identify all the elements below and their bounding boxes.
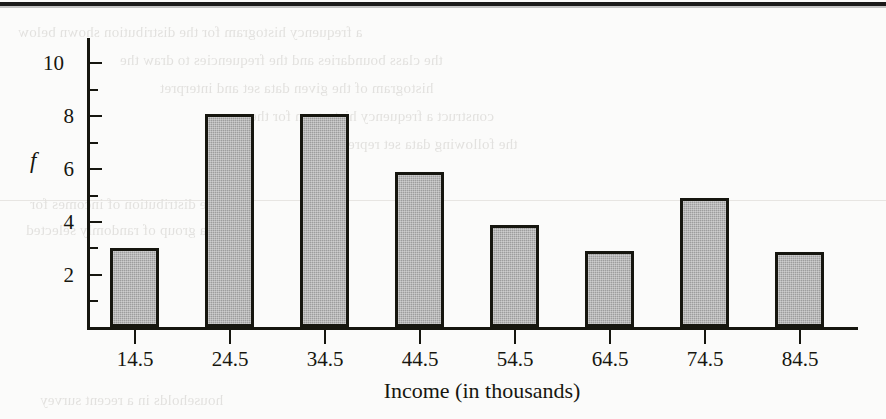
y-tick-label-2: 2 (34, 263, 74, 288)
bar-34-5 (300, 114, 349, 327)
bar-64-5 (585, 251, 634, 327)
x-tick-label-14-5: 14.5 (90, 347, 180, 372)
x-tick-label-54-5: 54.5 (470, 347, 560, 372)
x-tick-label-74-5: 74.5 (660, 347, 750, 372)
plot-area: 2 4 6 8 10 14.5 24.5 34.5 44.5 54.5 64.5… (0, 0, 886, 419)
y-tick-minor-5 (87, 195, 98, 197)
y-tick-major-6 (87, 168, 102, 170)
x-tick-34-5 (324, 330, 326, 344)
y-tick-minor-1 (87, 300, 98, 302)
x-tick-44-5 (419, 330, 421, 344)
x-tick-84-5 (799, 330, 801, 344)
bar-24-5 (205, 114, 254, 327)
histogram-figure: a frequency histogram for the distributi… (0, 0, 886, 419)
y-tick-major-8 (87, 115, 102, 117)
bar-54-5 (490, 225, 539, 327)
x-tick-label-64-5: 64.5 (565, 347, 655, 372)
y-tick-minor-9 (87, 89, 98, 91)
y-axis-title: f (30, 148, 36, 174)
y-tick-major-2 (87, 274, 102, 276)
y-tick-label-4: 4 (34, 210, 74, 235)
y-tick-label-6: 6 (34, 157, 74, 182)
y-axis-line (87, 38, 90, 329)
x-tick-54-5 (514, 330, 516, 344)
y-tick-minor-3 (87, 247, 98, 249)
x-axis-title-text: Income (in thousands) (384, 378, 581, 403)
x-axis-line (87, 327, 858, 330)
bar-44-5 (395, 172, 444, 327)
x-tick-14-5 (134, 330, 136, 344)
bar-14-5 (110, 248, 159, 327)
y-tick-major-10 (87, 62, 102, 64)
x-tick-label-34-5: 34.5 (280, 347, 370, 372)
x-tick-64-5 (609, 330, 611, 344)
bar-84-5 (775, 252, 824, 327)
y-tick-label-10: 10 (24, 51, 64, 76)
y-tick-minor-7 (87, 142, 98, 144)
x-tick-label-84-5: 84.5 (755, 347, 845, 372)
x-axis-title: Income (in thousands) (0, 378, 886, 404)
bar-74-5 (680, 198, 729, 327)
x-tick-74-5 (704, 330, 706, 344)
x-tick-label-24-5: 24.5 (185, 347, 275, 372)
x-tick-24-5 (229, 330, 231, 344)
x-tick-label-44-5: 44.5 (375, 347, 465, 372)
y-tick-label-8: 8 (34, 104, 74, 129)
y-tick-major-4 (87, 221, 102, 223)
